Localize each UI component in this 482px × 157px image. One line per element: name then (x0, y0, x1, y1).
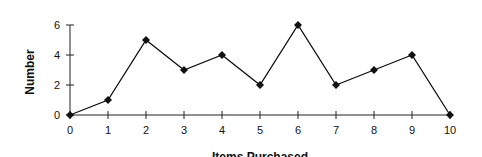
x-tick-label: 8 (371, 124, 377, 136)
y-tick-label: 4 (54, 49, 60, 61)
y-tick-label: 2 (54, 79, 60, 91)
line-chart: 0246012345678910 Number Items Purchased (0, 0, 482, 157)
diamond-marker-icon (370, 66, 378, 74)
diamond-marker-icon (446, 111, 454, 119)
x-axis-title: Items Purchased (212, 150, 308, 157)
diamond-marker-icon (104, 96, 112, 104)
x-tick-label: 6 (295, 124, 301, 136)
chart-axes: 0246012345678910 (54, 19, 456, 136)
chart-series (66, 21, 454, 119)
x-tick-label: 7 (333, 124, 339, 136)
data-line (70, 25, 450, 115)
diamond-marker-icon (294, 21, 302, 29)
x-tick-label: 3 (181, 124, 187, 136)
diamond-marker-icon (408, 51, 416, 59)
x-tick-label: 5 (257, 124, 263, 136)
y-axis-title: Number (23, 49, 37, 95)
y-tick-label: 6 (54, 19, 60, 31)
x-tick-label: 1 (105, 124, 111, 136)
x-tick-label: 10 (444, 124, 456, 136)
x-tick-label: 2 (143, 124, 149, 136)
x-tick-label: 9 (409, 124, 415, 136)
diamond-marker-icon (332, 81, 340, 89)
diamond-marker-icon (66, 111, 74, 119)
x-tick-label: 0 (67, 124, 73, 136)
x-tick-label: 4 (219, 124, 225, 136)
y-tick-label: 0 (54, 109, 60, 121)
